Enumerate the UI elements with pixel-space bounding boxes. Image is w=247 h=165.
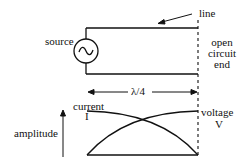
amplitude-arrow — [61, 110, 66, 157]
current-curve — [87, 111, 198, 155]
line-label: line — [199, 8, 216, 19]
amplitude-label: amplitude — [14, 128, 58, 139]
transmission-line — [86, 28, 198, 74]
current-symbol: I — [85, 111, 89, 122]
quarter-wave-line-diagram — [0, 0, 247, 165]
voltage-curve — [87, 111, 198, 155]
ac-source-icon — [74, 39, 98, 63]
line-pointer-arrow — [158, 14, 192, 24]
quarter-wave-label: λ/4 — [131, 86, 145, 97]
voltage-label: voltage — [201, 107, 233, 118]
source-label: source — [45, 36, 74, 47]
open-end-label-3: end — [203, 59, 241, 70]
voltage-symbol: V — [215, 119, 223, 130]
